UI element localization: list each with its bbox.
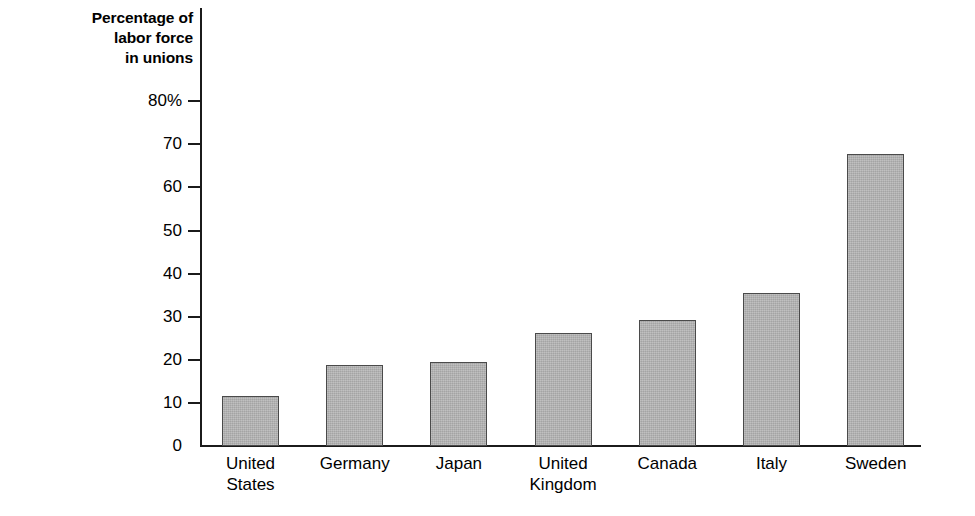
chart-figure: Percentage of labor force in unions 0102… (0, 0, 975, 516)
y-axis-tick-labels: 01020304050607080% (0, 0, 182, 516)
y-axis-tick-40 (188, 273, 200, 275)
y-axis-tick-60 (188, 186, 200, 188)
y-axis-tick-70 (188, 143, 200, 145)
bar-sweden (847, 154, 904, 446)
y-axis-label-10: 10 (0, 394, 182, 411)
y-axis-label-70: 70 (0, 135, 182, 152)
bar-united-kingdom (535, 333, 592, 446)
y-axis-label-50: 50 (0, 222, 182, 239)
y-axis-label-60: 60 (0, 178, 182, 195)
bar-japan (430, 362, 487, 446)
x-axis-label-sweden: Sweden (806, 453, 946, 474)
y-axis-line (200, 8, 202, 447)
y-axis-tick-10 (188, 402, 200, 404)
x-axis-label-line: Sweden (806, 453, 946, 474)
x-axis-label-line: States (181, 474, 321, 495)
y-axis-tick-50 (188, 230, 200, 232)
y-axis-label-80: 80% (0, 92, 182, 109)
bar-germany (326, 365, 383, 446)
y-axis-tick-80 (188, 100, 200, 102)
bar-italy (743, 293, 800, 446)
x-axis-label-line: Kingdom (493, 474, 633, 495)
bar-canada (639, 320, 696, 446)
y-axis-label-20: 20 (0, 351, 182, 368)
y-axis-label-40: 40 (0, 265, 182, 282)
bar-united-states (222, 396, 279, 446)
y-axis-tick-20 (188, 359, 200, 361)
y-axis-tick-30 (188, 316, 200, 318)
y-axis-label-30: 30 (0, 308, 182, 325)
y-axis-label-0: 0 (0, 437, 182, 454)
